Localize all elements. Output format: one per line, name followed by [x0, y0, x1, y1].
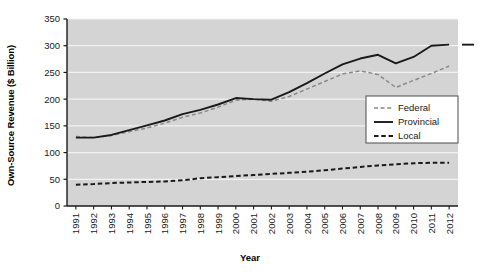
x-tick-label: 2010: [408, 213, 419, 234]
x-tick-label: 2006: [337, 213, 348, 234]
y-axis-title: Own-Source Revenue ($ Billion): [6, 44, 17, 185]
legend-label-provincial: Provincial: [398, 116, 439, 127]
y-tick-label: 200: [44, 94, 60, 105]
x-tick-label: 2004: [302, 213, 313, 234]
x-tick-label: 2008: [373, 213, 384, 234]
x-axis-title: Year: [240, 252, 260, 263]
legend-label-local: Local: [398, 130, 421, 141]
x-tick-label: 2002: [266, 213, 277, 234]
x-axis-title-container: Year: [0, 252, 480, 263]
y-tick-label: 300: [44, 40, 60, 51]
x-tick-label: 2001: [248, 213, 259, 234]
x-tick-label: 2011: [426, 213, 437, 233]
y-tick-label: 250: [44, 67, 60, 78]
chart-plot-area: 0501001502002503003501991199219931994199…: [0, 0, 480, 276]
x-tick-label: 2012: [444, 213, 455, 234]
x-tick-label: 1998: [195, 213, 206, 234]
x-tick-label: 1993: [106, 213, 117, 234]
x-tick-label: 2007: [355, 213, 366, 234]
chart-figure: Own-Source Revenue ($ Billion) 050100150…: [0, 0, 480, 276]
legend-label-federal: Federal: [398, 102, 430, 113]
y-tick-label: 150: [44, 120, 60, 131]
x-tick-label: 2000: [230, 213, 241, 234]
x-tick-label: 1994: [124, 213, 135, 234]
x-tick-label: 1995: [142, 213, 153, 234]
y-tick-label: 350: [44, 13, 60, 24]
x-tick-label: 1992: [88, 213, 99, 234]
x-tick-label: 1997: [177, 213, 188, 234]
x-tick-label: 2009: [390, 213, 401, 234]
x-tick-label: 2003: [284, 213, 295, 234]
y-tick-label: 50: [49, 174, 60, 185]
x-tick-label: 2005: [319, 213, 330, 234]
x-tick-label: 1996: [159, 213, 170, 234]
x-tick-label: 1999: [213, 213, 224, 234]
y-axis-title-container: Own-Source Revenue ($ Billion): [0, 0, 22, 230]
y-tick-label: 0: [55, 200, 60, 211]
y-tick-label: 100: [44, 147, 60, 158]
x-tick-label: 1991: [70, 213, 81, 234]
